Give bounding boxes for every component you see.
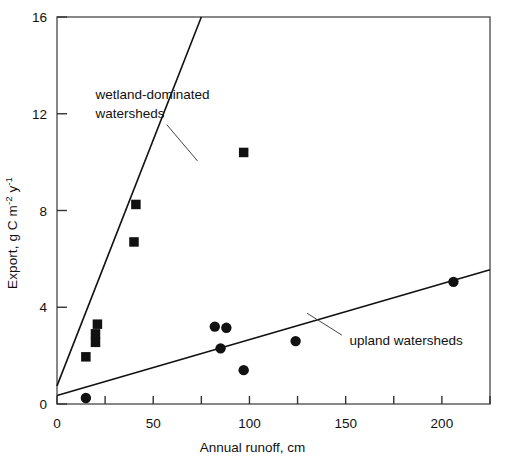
wetland-annotation-line1: wetland-dominated [94, 87, 209, 102]
x-tick-label: 100 [238, 416, 261, 431]
data-point-square [239, 148, 249, 158]
data-point-circle [215, 343, 225, 353]
x-tick-label: 0 [53, 416, 61, 431]
y-tick-label: 0 [39, 397, 47, 412]
y-axis-label-exp1: -2 [2, 196, 13, 205]
data-points [81, 148, 459, 403]
y-axis-tick-labels: 0481216 [32, 10, 48, 412]
data-point-circle [210, 321, 220, 331]
plot-canvas: 050100150200 0481216 wetland-dominatedwa… [0, 0, 505, 466]
y-tick-label: 4 [39, 300, 47, 315]
x-tick-label: 200 [431, 416, 454, 431]
data-point-square [81, 352, 91, 362]
x-axis-tick-labels: 050100150200 [53, 416, 453, 431]
trend-line-square [57, 17, 201, 386]
data-point-square [91, 329, 101, 339]
y-tick-label: 12 [32, 107, 47, 122]
data-point-square [131, 200, 141, 210]
x-axis-label: Annual runoff, cm [0, 440, 505, 455]
data-point-square [91, 338, 101, 348]
data-point-circle [221, 323, 231, 333]
data-point-circle [448, 277, 458, 287]
y-axis-label-exp2: -1 [2, 177, 13, 186]
data-point-circle [290, 336, 300, 346]
data-point-square [129, 237, 139, 247]
data-point-circle [81, 393, 91, 403]
wetland-annotation-line2: watersheds [94, 106, 164, 121]
x-axis-ticks [57, 396, 490, 404]
upland-annotation-leader [307, 313, 342, 335]
annotations: wetland-dominatedwatershedsupland waters… [94, 87, 463, 348]
y-axis-ticks [57, 17, 67, 404]
y-axis-label: Export, g C m-2 y-1 [0, 0, 24, 466]
x-tick-label: 150 [334, 416, 357, 431]
x-tick-label: 50 [146, 416, 161, 431]
chart-figure: Export, g C m-2 y-1 Annual runoff, cm 05… [0, 0, 505, 466]
y-tick-label: 16 [32, 10, 47, 25]
y-tick-label: 8 [39, 204, 47, 219]
upland-annotation-line1: upland watersheds [350, 333, 464, 348]
wetland-annotation-leader [167, 125, 198, 161]
data-point-square [93, 319, 103, 329]
data-point-circle [238, 365, 248, 375]
y-axis-label-text: Export, g C m-2 y-1 [5, 177, 20, 289]
